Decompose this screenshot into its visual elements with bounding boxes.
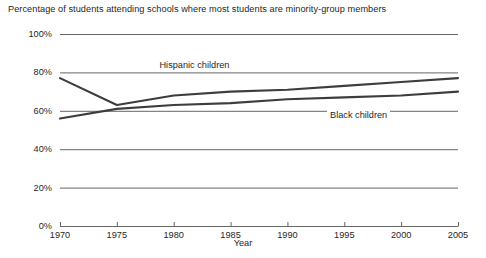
series-label-1: Hispanic children <box>156 59 232 71</box>
x-axis-title: Year <box>0 238 486 248</box>
y-tick-label-20%: 20% <box>0 183 52 193</box>
series-label-2: Black children <box>327 109 390 121</box>
y-tick-label-40%: 40% <box>0 144 52 154</box>
axis-lines <box>61 222 459 227</box>
chart-page: Percentage of students attending schools… <box>0 0 486 258</box>
series-lines <box>60 78 458 118</box>
y-tick-label-60%: 60% <box>0 106 52 116</box>
gridlines <box>60 35 458 227</box>
y-tick-label-80%: 80% <box>0 67 52 77</box>
chart-plot-area <box>0 0 486 258</box>
y-tick-label-100%: 100% <box>0 29 52 39</box>
